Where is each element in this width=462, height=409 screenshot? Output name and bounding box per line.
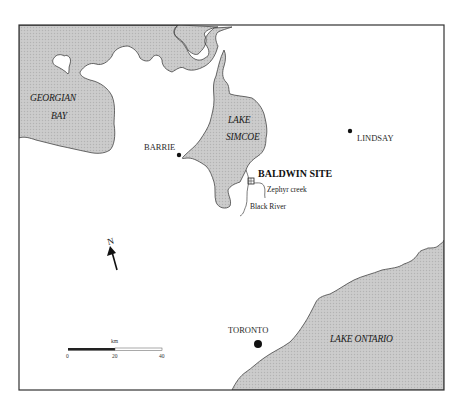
lake-ontario-label: LAKE ONTARIO bbox=[329, 334, 393, 344]
lake-simcoe-label-line2: SIMCOE bbox=[226, 132, 260, 142]
north-arrow-label: N bbox=[106, 235, 115, 246]
scale-bar-filled bbox=[68, 348, 115, 351]
barrie-marker bbox=[177, 153, 181, 157]
lake-ontario-water bbox=[232, 240, 444, 390]
georgian-bay-water bbox=[19, 25, 232, 153]
scale-tick-40: 40 bbox=[159, 353, 165, 359]
black-river-label: Black River bbox=[250, 202, 287, 211]
scale-bar: km 0 20 40 bbox=[66, 338, 165, 359]
zephyr-creek-line bbox=[254, 183, 265, 198]
scale-bar-empty bbox=[115, 348, 162, 351]
lindsay-marker bbox=[348, 129, 352, 133]
scale-tick-20: 20 bbox=[112, 353, 118, 359]
north-arrow: N bbox=[106, 235, 117, 270]
toronto-marker bbox=[254, 340, 262, 348]
barrie-label: BARRIE bbox=[144, 142, 175, 152]
zephyr-creek-label: Zephyr creek bbox=[267, 185, 307, 194]
lake-simcoe-label: LAKE bbox=[227, 115, 251, 125]
lindsay-label: LINDSAY bbox=[357, 133, 394, 143]
georgian-bay-label-line2: BAY bbox=[51, 111, 69, 121]
georgian-bay-label: GEORGIAN bbox=[30, 93, 77, 103]
scale-tick-0: 0 bbox=[66, 353, 69, 359]
baldwin-site-label: BALDWIN SITE bbox=[258, 168, 333, 179]
toronto-label: TORONTO bbox=[228, 325, 268, 335]
map-canvas: GEORGIAN BAY LAKE SIMCOE LAKE ONTARIO BA… bbox=[0, 0, 462, 409]
scale-unit-label: km bbox=[111, 338, 119, 344]
